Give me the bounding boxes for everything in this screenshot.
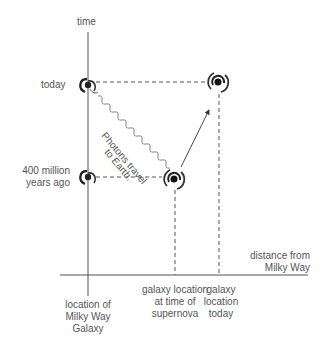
past-time-label-line2: years ago xyxy=(12,177,70,189)
distance-axis-label: distance from Milky Way xyxy=(240,250,310,274)
milky-way-today-galaxy-icon xyxy=(80,79,98,93)
distant-galaxy-today-icon xyxy=(208,73,228,92)
past-time-label: 400 million years ago xyxy=(12,165,70,189)
milky-way-location-label: location of Milky Way Galaxy xyxy=(60,299,116,335)
label-line: location of xyxy=(60,299,116,311)
distance-axis-label-line2: Milky Way xyxy=(240,262,310,274)
label-line: Milky Way xyxy=(60,311,116,323)
label-line: location xyxy=(199,296,243,308)
label-line: today xyxy=(199,308,243,320)
cropped-caption xyxy=(12,0,212,2)
distance-axis-label-line1: distance from xyxy=(240,250,310,262)
label-line: galaxy xyxy=(199,284,243,296)
distant-galaxy-supernova-icon xyxy=(164,170,184,189)
time-axis-label: time xyxy=(77,16,96,28)
past-time-label-line1: 400 million xyxy=(12,165,70,177)
galaxy-motion-arrow-icon xyxy=(181,110,209,167)
today-label: today xyxy=(41,79,65,91)
today-location-label: galaxy location today xyxy=(199,284,243,320)
label-line: Galaxy xyxy=(60,323,116,335)
